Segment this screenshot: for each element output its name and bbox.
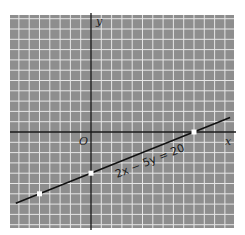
plotted-point: [192, 130, 197, 135]
y-axis-label: y: [95, 15, 103, 28]
coordinate-plane: x y O 2x − 5y = 20: [0, 0, 245, 235]
origin-label: O: [79, 135, 88, 148]
plotted-point: [37, 191, 42, 196]
plotted-point: [89, 171, 94, 176]
x-axis-label: x: [225, 135, 232, 148]
